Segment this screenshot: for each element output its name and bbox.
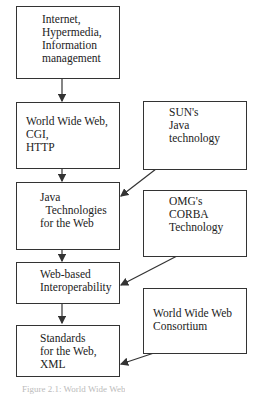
node-w3c: World Wide Web Consortium [143,288,247,354]
node-omg-corba: OMG's CORBA Technology [143,190,247,257]
node-line: World Wide Web, [26,115,119,128]
node-line: Java [40,191,119,204]
node-java-technologies: Java Technologies for the Web [16,182,120,250]
node-line: Consortium [153,320,246,333]
node-line: CORBA [169,208,246,221]
node-line: Hypermedia, [42,26,119,39]
node-line: technology [169,132,246,145]
node-line: Internet, [42,13,119,26]
node-www-cgi-http: World Wide Web, CGI, HTTP [16,102,120,169]
node-line: XML [40,358,119,371]
node-line: Technology [169,221,246,234]
node-line: Information [42,39,119,52]
node-line: HTTP [26,141,119,154]
node-line: Web-based [40,268,119,281]
node-line: CGI, [26,128,119,141]
node-web-interoperability: Web-based Interoperability [16,262,120,304]
node-internet-hypermedia: Internet, Hypermedia, Information manage… [16,6,120,79]
node-line: Technologies [40,204,119,217]
node-line: SUN's [169,106,246,119]
node-line: Standards [40,332,119,345]
node-web-standards-xml: Standards for the Web, XML [16,325,120,377]
node-sun-java: SUN's Java technology [143,101,247,170]
node-line: OMG's [169,195,246,208]
node-line: management [42,52,119,65]
node-line: for the Web, [40,345,119,358]
node-line: Java [169,119,246,132]
node-line: World Wide Web [153,307,246,320]
node-line: Interoperability [40,281,119,294]
figure-caption: Figure 2.1: World Wide Web [22,384,125,396]
node-line: for the Web [40,217,119,230]
